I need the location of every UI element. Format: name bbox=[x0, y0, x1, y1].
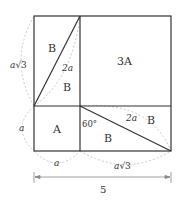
label-b-bottom: B bbox=[104, 132, 112, 145]
label-dimension: 5 bbox=[100, 184, 106, 195]
label-hyp-bottom: 2a bbox=[125, 113, 137, 123]
dashed-arcs bbox=[21, 16, 171, 165]
diagonal-top bbox=[34, 16, 80, 106]
geometry-diagram: B B 3A A B B 2a 2a a√3 a a a√3 60° 5 bbox=[0, 0, 182, 203]
label-3a: 3A bbox=[117, 55, 133, 68]
dimension-line bbox=[34, 172, 171, 183]
label-b-top-left: B bbox=[48, 42, 56, 55]
label-side-left-top: a√3 bbox=[10, 60, 27, 70]
label-b-top-right: B bbox=[63, 81, 71, 94]
label-hyp-top: 2a bbox=[61, 63, 73, 73]
label-side-left-bottom: a bbox=[19, 123, 24, 133]
label-side-bottom-right: a√3 bbox=[114, 161, 131, 171]
label-side-bottom-left: a bbox=[54, 158, 59, 168]
label-a: A bbox=[52, 123, 62, 136]
label-angle: 60° bbox=[82, 119, 97, 129]
label-b-bottom-right: B bbox=[147, 114, 155, 127]
